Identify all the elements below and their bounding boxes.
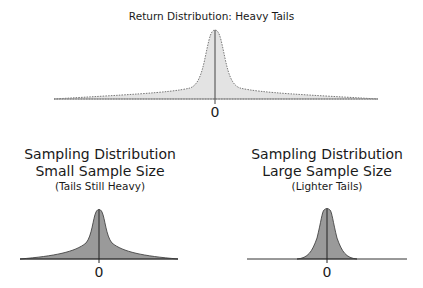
large-sample-distribution — [247, 209, 407, 264]
right-subtitle: (Lighter Tails) — [222, 180, 423, 193]
right-title-line2: Large Sample Size — [222, 163, 423, 180]
left-title-line1: Sampling Distribution — [0, 146, 200, 163]
right-axis-zero-label: 0 — [317, 264, 337, 280]
left-title-line2: Small Sample Size — [0, 163, 200, 180]
right-title-line1: Sampling Distribution — [222, 146, 423, 163]
top-axis-zero-label: 0 — [205, 104, 225, 120]
left-axis-zero-label: 0 — [89, 264, 109, 280]
distribution-diagrams — [0, 0, 423, 288]
small-sample-distribution — [20, 210, 178, 264]
top-distribution — [54, 30, 378, 104]
left-subtitle: (Tails Still Heavy) — [0, 180, 200, 193]
